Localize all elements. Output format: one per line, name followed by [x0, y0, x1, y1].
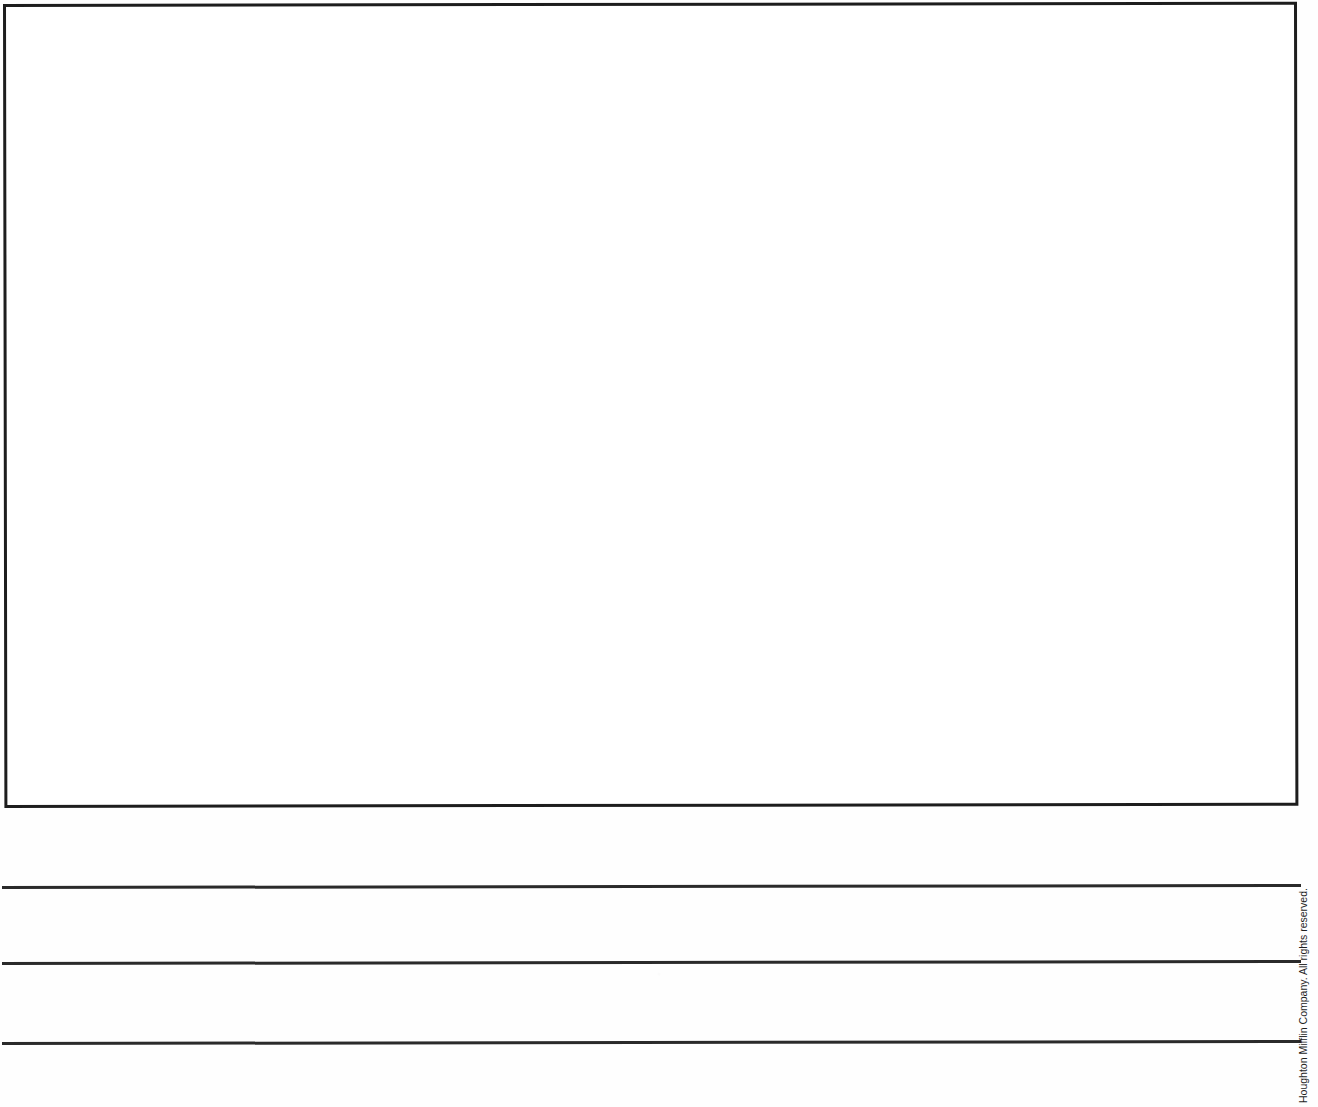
copyright-margin: Houghton Mifflin Company. All rights res…	[1300, 803, 1318, 1103]
worksheet-page: Houghton Mifflin Company. All rights res…	[0, 0, 1318, 1107]
drawing-box[interactable]	[3, 2, 1298, 808]
copyright-notice: Houghton Mifflin Company. All rights res…	[1297, 888, 1309, 1103]
writing-line-1[interactable]	[2, 884, 1301, 889]
writing-line-2[interactable]	[2, 960, 1301, 965]
writing-line-3[interactable]	[2, 1040, 1301, 1045]
drawing-area[interactable]	[6, 5, 1295, 805]
